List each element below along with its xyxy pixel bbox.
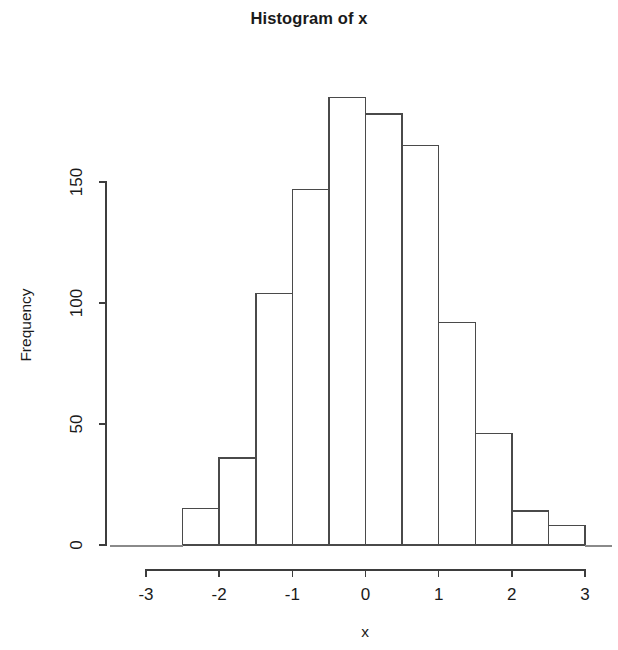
x-axis-tick-labels: -3-2-10123 <box>138 585 589 604</box>
histogram-bar <box>183 509 220 545</box>
x-axis-tick-label: -2 <box>212 585 227 604</box>
x-axis-ticks <box>219 570 512 577</box>
x-axis-title: x <box>361 623 369 640</box>
histogram-bar <box>256 293 293 545</box>
histogram-bar <box>292 189 329 545</box>
plot-canvas: 050100150 -3-2-10123 Frequency x <box>0 0 618 650</box>
histogram-bar <box>329 97 366 545</box>
y-axis-tick-label: 100 <box>67 289 86 317</box>
x-axis-tick-label: 0 <box>361 585 370 604</box>
x-axis-tick-label: 1 <box>434 585 443 604</box>
y-axis-tick-labels: 050100150 <box>67 168 86 550</box>
y-axis <box>99 182 106 545</box>
bars-group <box>183 97 585 545</box>
histogram-bar <box>402 146 439 545</box>
histogram-bar <box>366 114 403 545</box>
y-axis-tick-label: 0 <box>67 540 86 549</box>
histogram-bar <box>475 434 512 545</box>
y-axis-tick-label: 50 <box>67 415 86 434</box>
x-axis-tick-label: -3 <box>138 585 153 604</box>
histogram-bar <box>512 511 549 545</box>
histogram-plot: Histogram of x 050100150 -3-2-10123 Freq… <box>0 0 618 650</box>
histogram-bar <box>439 322 476 545</box>
y-axis-line <box>99 182 106 545</box>
histogram-bar <box>548 526 585 545</box>
y-axis-tick-label: 150 <box>67 168 86 196</box>
histogram-bar <box>219 458 256 545</box>
y-axis-title: Frequency <box>17 288 34 361</box>
x-axis-tick-label: -1 <box>285 585 300 604</box>
x-axis-tick-label: 3 <box>580 585 589 604</box>
x-axis-tick-label: 2 <box>507 585 516 604</box>
